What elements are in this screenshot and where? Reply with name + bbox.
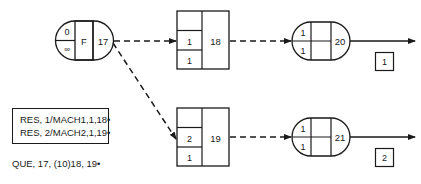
sink-20-top-left: 1: [300, 28, 305, 38]
source-bottom-left: ∞: [64, 45, 70, 54]
activity-box-18: 1 1 18: [177, 11, 229, 69]
resource-line-2: RES, 2/MACH2,1,19•: [20, 126, 108, 139]
activity-19-row-2: 2: [187, 134, 192, 144]
activity-18-row-3: 1: [187, 56, 192, 66]
source-queue-node: 0 ∞ F 17: [56, 21, 114, 60]
sink-20-number: 20: [335, 36, 346, 47]
source-top-left: 0: [64, 27, 69, 37]
sink-21-number: 21: [335, 132, 346, 143]
sink-20-label: 1: [382, 57, 387, 67]
sink-21-top-left: 1: [300, 124, 305, 134]
activity-19-number: 19: [210, 133, 221, 144]
sink-21-label-box: 2: [376, 149, 394, 167]
queue-statement: QUE, 17, (10)18, 19•: [12, 158, 100, 169]
arrow-17-to-19: [113, 43, 176, 139]
activity-box-19: 2 1 19: [177, 108, 229, 166]
sink-20-bottom-left: 1: [300, 46, 305, 56]
activity-18-row-2: 1: [187, 37, 192, 47]
sink-20-label-box: 1: [376, 53, 394, 71]
network-diagram: 0 ∞ F 17 1 1 18 2 1 19 1 1 20: [0, 0, 421, 184]
sink-node-20: 1 1 20: [292, 22, 350, 60]
source-middle: F: [81, 36, 87, 47]
resource-line-1: RES, 1/MACH1,1,18•: [20, 113, 108, 126]
sink-node-21: 1 1 21: [292, 118, 350, 156]
source-number: 17: [98, 36, 109, 47]
activity-18-number: 18: [210, 36, 221, 47]
sink-21-label: 2: [382, 153, 387, 163]
resource-statement-box: RES, 1/MACH1,1,18• RES, 2/MACH2,1,19•: [12, 108, 109, 144]
activity-19-row-3: 1: [187, 153, 192, 163]
sink-21-bottom-left: 1: [300, 142, 305, 152]
